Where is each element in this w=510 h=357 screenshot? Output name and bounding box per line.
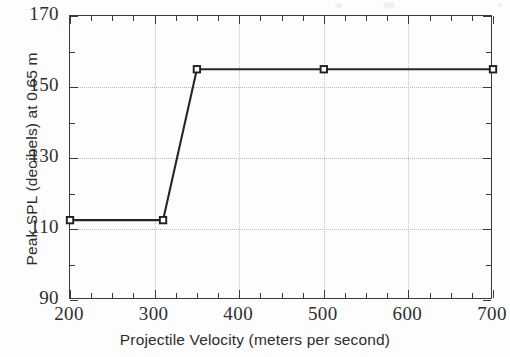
chart-figure: 90110130150170 200300400500600700 Peak S… (0, 0, 510, 357)
data-point-marker (490, 66, 496, 72)
y-axis-tick (70, 300, 78, 301)
x-axis-tick-label: 400 (223, 303, 253, 325)
data-point-marker (67, 217, 73, 223)
data-point-marker (321, 66, 327, 72)
x-axis-tick-label: 300 (139, 303, 169, 325)
scan-artifact (497, 3, 502, 7)
data-point-marker (194, 66, 200, 72)
x-axis-title: Projectile Velocity (meters per second) (0, 331, 510, 349)
scan-artifact (383, 2, 395, 9)
x-axis-tick-label: 600 (393, 303, 423, 325)
y-axis-tick (483, 300, 491, 301)
data-point-marker (160, 217, 166, 223)
series-markers (67, 66, 496, 223)
scan-artifact (335, 3, 342, 8)
x-axis-tick-label: 200 (54, 303, 84, 325)
x-axis-tick (493, 16, 494, 24)
series-line-peak-spl (70, 69, 493, 220)
x-axis-tick-label: 700 (477, 303, 507, 325)
x-axis-tick (493, 290, 494, 298)
x-axis-tick-label: 500 (308, 303, 338, 325)
y-axis-title: Peak SPL (decibels) at 0.65 m (23, 9, 41, 309)
plot-area (69, 15, 492, 299)
data-series-layer (70, 16, 493, 300)
